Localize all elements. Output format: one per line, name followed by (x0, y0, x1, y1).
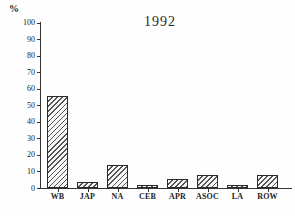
bar-row (257, 175, 278, 188)
y-tick (37, 56, 40, 57)
y-axis-line (40, 22, 41, 189)
bar-la (227, 185, 248, 188)
y-tick (37, 72, 40, 73)
y-tick-label: 10 (0, 168, 35, 176)
y-tick-label: 70 (0, 69, 35, 77)
x-tick-label-jap: JAP (71, 192, 105, 201)
chart-title: 1992 (130, 14, 190, 30)
bar-ceb (137, 185, 158, 188)
bar-apr (167, 179, 188, 189)
x-tick-label-la: LA (221, 192, 255, 201)
x-tick-label-row: ROW (251, 192, 285, 201)
y-tick-label: 80 (0, 52, 35, 60)
y-tick-label: 100 (0, 19, 35, 27)
y-tick (37, 155, 40, 156)
y-tick-label: 50 (0, 102, 35, 110)
y-tick-label: 60 (0, 85, 35, 93)
y-tick (37, 122, 40, 123)
y-tick (37, 171, 40, 172)
y-tick-label: 90 (0, 36, 35, 44)
x-tick-label-na: NA (101, 192, 135, 201)
y-tick-label: 30 (0, 135, 35, 143)
bar-wb (47, 96, 68, 189)
y-tick (37, 188, 40, 189)
y-axis-unit-label: % (9, 3, 19, 14)
x-tick-label-asoc: ASOC (191, 192, 225, 201)
x-tick-label-wb: WB (41, 192, 75, 201)
y-tick-label: 0 (0, 185, 35, 193)
x-tick-label-ceb: CEB (131, 192, 165, 201)
bar-na (107, 165, 128, 188)
y-tick-label: 20 (0, 151, 35, 159)
y-tick (37, 89, 40, 90)
y-tick-label: 40 (0, 118, 35, 126)
y-tick (37, 138, 40, 139)
bar-chart-figure: % 1992 0102030405060708090100WBJAPNACEBA… (0, 0, 295, 216)
y-tick (37, 105, 40, 106)
bar-asoc (197, 175, 218, 188)
bar-jap (77, 182, 98, 189)
x-tick-label-apr: APR (161, 192, 195, 201)
y-tick (37, 23, 40, 24)
y-tick (37, 39, 40, 40)
